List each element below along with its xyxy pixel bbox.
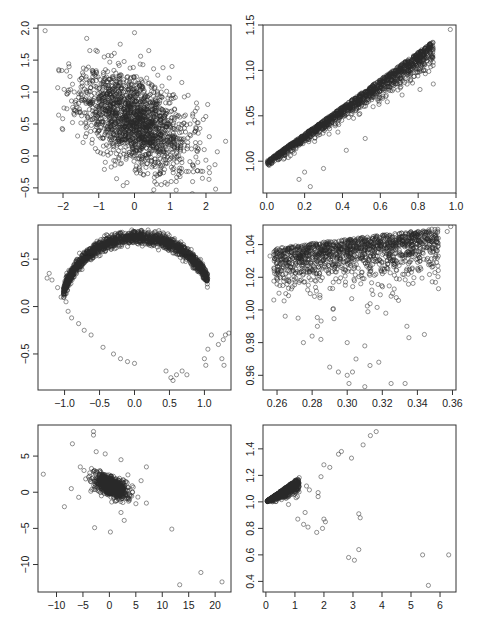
x-tick-label: 0.34 [407, 397, 428, 409]
x-tick-label: 1 [292, 599, 298, 611]
x-tick-label: 5 [133, 599, 139, 611]
y-tick-label: 0.0 [19, 299, 31, 314]
x-tick-label: 0.5 [162, 397, 177, 409]
x-tick-label: 1.0 [197, 397, 212, 409]
x-tick-label: 0 [132, 200, 138, 212]
figure-background [0, 0, 478, 627]
y-tick-label: 1.15 [244, 15, 256, 36]
y-tick-label: 1.0 [244, 494, 256, 509]
y-tick-label: 0.5 [19, 117, 31, 132]
x-tick-label: 0.8 [411, 200, 426, 212]
y-tick-label: 1.02 [244, 267, 256, 288]
y-tick-label: 2.0 [19, 21, 31, 36]
y-tick-label: 1.05 [244, 105, 256, 126]
y-tick-label: 0.4 [244, 574, 256, 589]
x-tick-label: 6 [437, 599, 443, 611]
y-tick-label: 1.00 [244, 300, 256, 321]
x-tick-label: −1 [93, 200, 105, 212]
y-tick-label: 1.2 [244, 468, 256, 483]
y-tick-label: 0 [19, 489, 31, 495]
x-tick-label: 0 [263, 599, 269, 611]
x-tick-label: 0.28 [302, 397, 323, 409]
y-tick-label: −0.5 [19, 177, 31, 198]
x-tick-label: 3 [350, 599, 356, 611]
x-tick-label: 10 [156, 599, 168, 611]
y-tick-label: 5 [19, 453, 31, 459]
y-tick-label: −10 [19, 555, 31, 573]
x-tick-label: 15 [183, 599, 195, 611]
x-tick-label: −5 [77, 599, 89, 611]
y-tick-label: 1.5 [19, 53, 31, 68]
y-tick-label: 1.0 [19, 85, 31, 100]
scatter-plot-grid: −2−1012−0.50.00.51.01.52.0 0.00.20.40.60… [0, 0, 478, 627]
x-tick-label: −1.0 [54, 397, 75, 409]
y-tick-label: −0.5 [19, 343, 31, 364]
x-tick-label: 0.4 [335, 200, 350, 212]
x-tick-label: 2 [203, 200, 209, 212]
x-tick-label: 2 [321, 599, 327, 611]
x-tick-label: 0.0 [259, 200, 274, 212]
y-tick-label: 0.8 [244, 521, 256, 536]
y-tick-label: 1.04 [244, 234, 256, 255]
x-tick-label: 0.2 [297, 200, 312, 212]
y-tick-label: 0.5 [19, 252, 31, 267]
x-tick-label: −2 [57, 200, 69, 212]
x-tick-label: 0.0 [127, 397, 142, 409]
x-tick-label: 1 [167, 200, 173, 212]
x-tick-label: 0 [106, 599, 112, 611]
x-tick-label: 0.36 [442, 397, 463, 409]
y-tick-label: 0.96 [244, 365, 256, 386]
x-tick-label: 4 [379, 599, 385, 611]
y-tick-label: 1.4 [244, 441, 256, 456]
y-tick-label: 0.0 [19, 148, 31, 163]
x-tick-label: 0.26 [267, 397, 288, 409]
y-tick-label: 0.98 [244, 332, 256, 353]
x-tick-label: 1.0 [449, 200, 464, 212]
y-tick-label: 0.6 [244, 547, 256, 562]
y-tick-label: 1.10 [244, 60, 256, 81]
x-tick-label: 0.32 [372, 397, 393, 409]
y-tick-label: 1.00 [244, 151, 256, 172]
x-tick-label: −10 [48, 599, 66, 611]
x-tick-label: 20 [209, 599, 221, 611]
x-tick-label: −0.5 [89, 397, 110, 409]
x-tick-label: 5 [408, 599, 414, 611]
y-tick-label: −5 [19, 522, 31, 534]
x-tick-label: 0.30 [337, 397, 358, 409]
x-tick-label: 0.6 [373, 200, 388, 212]
